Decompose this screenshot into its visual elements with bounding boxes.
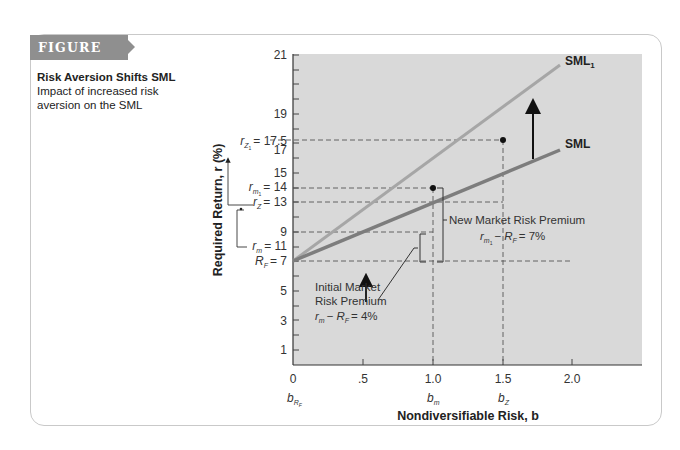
- x-tick-label: 1.5: [495, 372, 512, 386]
- x-sub-label-bm: bm: [427, 391, 440, 406]
- y-tick-label: 3: [280, 314, 287, 328]
- initial-premium-line2: Risk Premium: [315, 295, 387, 307]
- y-ticks: [293, 55, 299, 350]
- sml-label: SML: [565, 137, 590, 151]
- x-tick-label: .5: [358, 372, 368, 386]
- y-tick-label: 19: [274, 107, 288, 121]
- x-axis-title: Nondiversifiable Risk, b: [397, 409, 539, 423]
- point-rz1: [500, 137, 506, 143]
- x-sub-label-brf: bRF: [287, 391, 303, 408]
- y-tick-label: 1: [280, 343, 287, 357]
- new-premium-line1: New Market Risk Premium: [449, 214, 585, 226]
- x-sub-label-bz: bZ: [498, 391, 510, 406]
- y-tick-label: 15: [274, 166, 288, 180]
- initial-premium-line1: Initial Market: [315, 281, 381, 293]
- y-tick-label: 5: [280, 284, 287, 298]
- y-tick-label: 9: [280, 225, 287, 239]
- x-tick-label: 1.0: [425, 372, 442, 386]
- x-tick-label: 2.0: [564, 372, 581, 386]
- point-rm1: [430, 185, 436, 191]
- y-axis-title: Required Return, r (%): [211, 144, 225, 277]
- sml-chart: 1 3 5 9 15 17 19 21 rZ1= 17.5 rm1= 14 rZ…: [0, 0, 680, 450]
- rz-label: rZ= 13: [253, 195, 287, 210]
- x-tick-label: 0: [290, 372, 297, 386]
- rm-label: rm= 11: [252, 239, 287, 254]
- y-label-brackets: [228, 160, 253, 247]
- rf-label: RF= 7: [255, 254, 287, 269]
- y-tick-label: 21: [274, 48, 288, 62]
